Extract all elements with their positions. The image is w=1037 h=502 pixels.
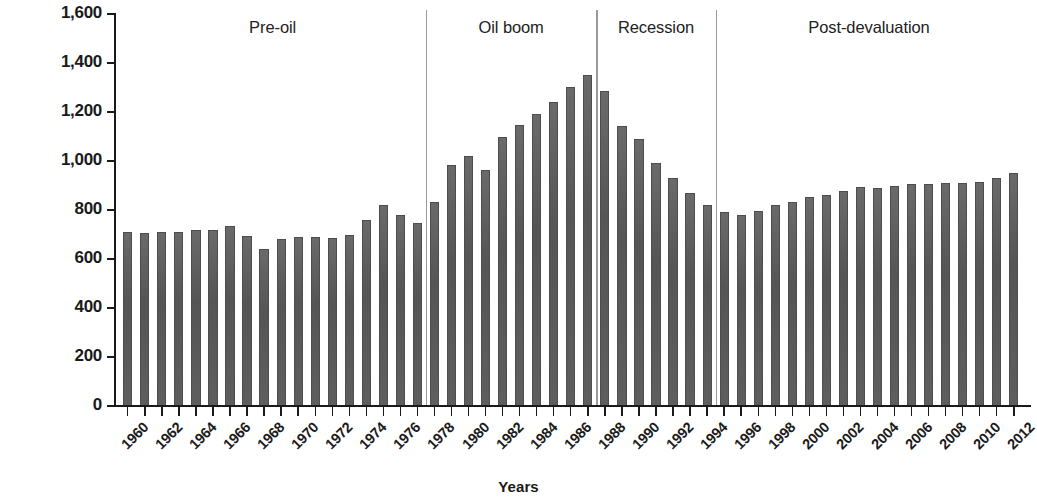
y-axis-tick	[107, 62, 115, 64]
bar	[941, 183, 950, 406]
x-axis-tick	[604, 407, 605, 416]
x-axis-tick	[689, 407, 690, 416]
x-axis-tick	[996, 407, 997, 416]
y-axis-tick-label: 0	[34, 395, 102, 415]
x-axis-tick	[740, 407, 741, 416]
x-axis-tick-label: 1974	[356, 419, 389, 452]
x-axis-title: Years	[0, 478, 1037, 495]
x-axis-tick	[502, 407, 503, 416]
x-axis-tick	[297, 407, 298, 416]
bar	[992, 178, 1001, 406]
bar	[703, 205, 712, 406]
bar	[839, 191, 848, 406]
y-axis-tick-label: 600	[34, 248, 102, 268]
x-axis-tick	[638, 407, 639, 416]
x-axis-tick	[536, 407, 537, 416]
bar	[822, 195, 831, 406]
x-axis-tick-label: 1994	[697, 419, 730, 452]
x-axis-tick-label: 1972	[322, 419, 355, 452]
x-axis-tick-label: 1982	[493, 419, 526, 452]
bar	[225, 226, 234, 406]
bar	[208, 230, 217, 406]
x-axis-tick-label: 1980	[459, 419, 492, 452]
x-axis-tick	[723, 407, 724, 416]
x-axis-tick-label: 1984	[527, 419, 560, 452]
bar	[311, 237, 320, 406]
bar	[328, 238, 337, 406]
x-axis-tick	[587, 407, 588, 416]
bar	[259, 249, 268, 406]
x-axis-tick-label: 2004	[868, 419, 901, 452]
bar	[737, 215, 746, 406]
y-axis-tick-label: 400	[34, 297, 102, 317]
x-axis-tick	[553, 407, 554, 416]
x-axis-tick-label: 1966	[220, 419, 253, 452]
x-axis-tick-label: 1986	[561, 419, 594, 452]
period-divider-line	[596, 10, 597, 406]
bar	[600, 91, 609, 406]
x-axis-tick-label: 1968	[254, 419, 287, 452]
plot-area	[115, 14, 1030, 406]
x-axis-tick	[332, 407, 333, 416]
period-label: Recession	[618, 18, 694, 37]
x-axis-tick	[843, 407, 844, 416]
x-axis-tick	[894, 407, 895, 416]
x-axis-tick	[979, 407, 980, 416]
x-axis-tick	[860, 407, 861, 416]
bar	[651, 163, 660, 406]
x-axis-tick-label: 1970	[288, 419, 321, 452]
x-axis-tick	[945, 407, 946, 416]
x-axis-tick	[161, 407, 162, 416]
y-axis-tick	[107, 13, 115, 15]
bar	[975, 182, 984, 406]
x-axis-tick	[655, 407, 656, 416]
x-axis-tick	[962, 407, 963, 416]
bar	[617, 126, 626, 406]
x-axis-tick	[451, 407, 452, 416]
bar	[242, 236, 251, 406]
bar	[634, 139, 643, 406]
x-axis-tick	[570, 407, 571, 416]
y-axis-tick	[107, 356, 115, 358]
x-axis-tick	[417, 407, 418, 416]
x-axis-tick-label: 2002	[833, 419, 866, 452]
x-axis-tick	[706, 407, 707, 416]
x-axis-tick-label: 1988	[595, 419, 628, 452]
x-axis-tick	[877, 407, 878, 416]
x-axis-tick	[809, 407, 810, 416]
y-axis-tick	[107, 209, 115, 211]
x-axis-tick-label: 1992	[663, 419, 696, 452]
bar	[345, 235, 354, 407]
bar	[277, 239, 286, 406]
y-axis-tick	[107, 160, 115, 162]
x-axis-tick	[826, 407, 827, 416]
x-axis-tick-label: 2012	[1004, 419, 1037, 452]
x-axis-tick-label: 1978	[425, 419, 458, 452]
x-axis-tick-label: 1964	[186, 419, 219, 452]
gdp-per-capita-bar-chart: GDP per capita in constant 2005 US$ 0200…	[0, 0, 1037, 502]
bar	[447, 165, 456, 406]
x-axis-tick	[434, 407, 435, 416]
bar	[873, 188, 882, 406]
bar	[430, 202, 439, 406]
bar	[805, 197, 814, 406]
y-axis-tick-label: 1,400	[34, 52, 102, 72]
x-axis-tick-label: 1998	[765, 419, 798, 452]
bar	[140, 233, 149, 406]
x-axis-tick-label: 2000	[799, 419, 832, 452]
y-axis-tick	[107, 307, 115, 309]
bar	[191, 230, 200, 406]
bar	[174, 232, 183, 406]
bar	[924, 184, 933, 406]
y-axis-tick	[107, 111, 115, 113]
x-axis-tick	[195, 407, 196, 416]
bar	[549, 102, 558, 406]
x-axis-tick	[280, 407, 281, 416]
bar	[396, 215, 405, 406]
bar	[532, 114, 541, 406]
bar	[515, 125, 524, 406]
bar	[294, 237, 303, 406]
bar	[498, 137, 507, 407]
y-axis-tick-label: 1,600	[34, 3, 102, 23]
period-label: Post-devaluation	[808, 18, 929, 37]
